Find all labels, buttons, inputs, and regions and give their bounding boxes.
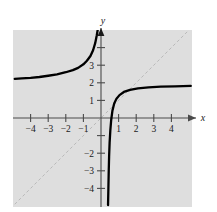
x-tick-label: −4 [26,124,36,134]
y-axis-label: y [100,15,106,26]
y-tick-label: 3 [89,61,94,71]
y-tick-label: −4 [84,184,94,194]
x-tick-label: −2 [61,124,71,134]
x-tick-label: −1 [78,124,88,134]
x-tick-label: 4 [169,124,174,134]
y-tick-label: −2 [84,149,94,159]
y-tick-label: 1 [89,96,94,106]
x-tick-label: 2 [134,124,139,134]
x-axis-label: x [200,112,206,123]
y-tick-label: −3 [84,166,94,176]
x-tick-label: −3 [43,124,53,134]
x-tick-label: 1 [116,124,121,134]
x-tick-label: 3 [151,124,156,134]
function-graph-figure: −4−3−2−11234 −4−3−2123 x y [0,0,217,212]
y-tick-label: 2 [89,78,94,88]
plot-canvas: −4−3−2−11234 −4−3−2123 x y [0,0,217,212]
